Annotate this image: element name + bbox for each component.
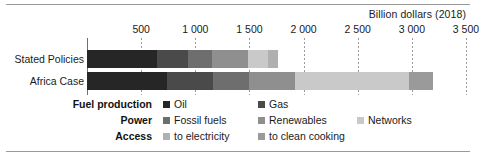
legend-item-networks[interactable]: Networks [357, 114, 412, 126]
x-tick-label: 2 000 [290, 23, 316, 35]
legend-row-power: Power Fossil fuels Renewables Networks [0, 114, 476, 129]
bar-row [87, 50, 466, 68]
legend-item-to-electricity[interactable]: to electricity [163, 130, 229, 142]
axis-title: Billion dollars (2018) [369, 8, 466, 20]
legend-swatch-renewables [258, 117, 265, 124]
top-border [6, 4, 470, 5]
bar-row [87, 72, 466, 90]
legend-row-fuel-production: Fuel production Oil Gas [0, 98, 476, 113]
legend: Fuel production Oil Gas Power Fossil fue… [0, 98, 476, 148]
x-tick-label: 1 000 [182, 23, 208, 35]
bar-segment[interactable] [249, 72, 294, 90]
bar-segment[interactable] [87, 50, 157, 68]
legend-group-label-fuel-production: Fuel production [0, 98, 152, 110]
x-tick-label: 1 500 [236, 23, 262, 35]
legend-item-oil[interactable]: Oil [163, 98, 187, 110]
legend-item-renewables[interactable]: Renewables [258, 114, 327, 126]
bar-segment[interactable] [188, 50, 212, 68]
bar-segment[interactable] [409, 72, 434, 90]
x-tick-label: 3 000 [399, 23, 425, 35]
legend-label-renewables: Renewables [269, 114, 327, 126]
x-tick-label: 500 [132, 23, 150, 35]
x-tick-label: 2 500 [345, 23, 371, 35]
legend-label-to-clean-cooking: to clean cooking [269, 130, 345, 142]
bar-segment[interactable] [295, 72, 409, 90]
bar-segment[interactable] [157, 50, 187, 68]
plot-area [87, 38, 466, 95]
x-tick-label: 3 500 [453, 23, 479, 35]
bar-segment[interactable] [212, 50, 249, 68]
legend-label-fossil-fuels: Fossil fuels [174, 114, 227, 126]
bar-segment[interactable] [87, 72, 167, 90]
bar-segment[interactable] [167, 72, 212, 90]
legend-label-to-electricity: to electricity [174, 130, 229, 142]
gridline [466, 38, 467, 95]
legend-label-gas: Gas [269, 98, 288, 110]
legend-group-label-power: Power [0, 114, 152, 126]
bar-segment[interactable] [213, 72, 250, 90]
legend-group-label-access: Access [0, 130, 152, 142]
legend-swatch-fossil-fuels [163, 117, 170, 124]
legend-item-to-clean-cooking[interactable]: to clean cooking [258, 130, 345, 142]
category-label: Stated Policies [0, 53, 84, 65]
category-label: Africa Case [0, 75, 84, 87]
legend-item-fossil-fuels[interactable]: Fossil fuels [163, 114, 227, 126]
legend-swatch-to-clean-cooking [258, 133, 265, 140]
legend-swatch-gas [258, 101, 265, 108]
bottom-border [6, 151, 470, 152]
bar-segment[interactable] [248, 50, 267, 68]
legend-row-access: Access to electricity to clean cooking [0, 130, 476, 145]
legend-label-networks: Networks [368, 114, 412, 126]
legend-swatch-to-electricity [163, 133, 170, 140]
legend-label-oil: Oil [174, 98, 187, 110]
legend-swatch-oil [163, 101, 170, 108]
legend-swatch-networks [357, 117, 364, 124]
legend-item-gas[interactable]: Gas [258, 98, 288, 110]
bar-segment[interactable] [268, 50, 278, 68]
